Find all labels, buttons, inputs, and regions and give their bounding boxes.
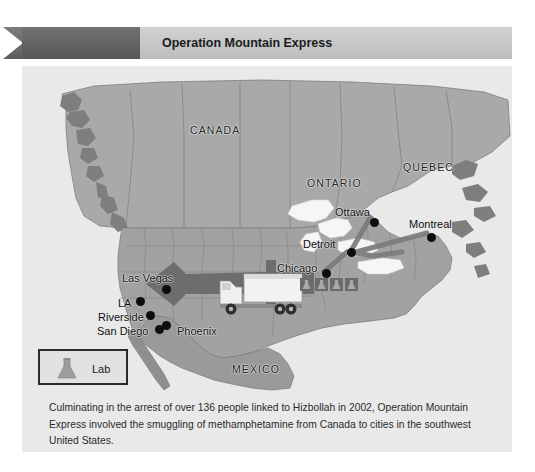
city-label-las-vegas: Las Vegas	[122, 272, 173, 284]
city-dot-montreal	[427, 233, 436, 242]
city-dot-la	[136, 297, 145, 306]
region-label-ontario: ONTARIO	[307, 177, 362, 189]
city-label-san-diego: San Diego	[97, 325, 148, 337]
figure-body-panel: CANADA ONTARIO QUEBEC MEXICO Ottawa Mont…	[22, 66, 512, 452]
figure-number-tab	[22, 27, 140, 59]
region-label-mexico: MEXICO	[232, 363, 280, 375]
figure-caption: Culminating in the arrest of over 136 pe…	[49, 400, 489, 450]
region-label-quebec: QUEBEC	[403, 161, 454, 173]
map-legend: Lab	[38, 349, 128, 385]
eastern-canada-detail	[452, 160, 496, 278]
city-dot-ottawa	[370, 218, 379, 227]
city-dot-riverside	[146, 311, 155, 320]
figure-title-label: Operation Mountain Express	[162, 27, 332, 59]
city-label-la: LA	[118, 297, 131, 309]
figure-caption-text: Culminating in the arrest of over 136 pe…	[49, 400, 489, 450]
figure-tab-chevron-icon	[3, 27, 23, 59]
city-dot-chicago	[322, 269, 331, 278]
city-label-chicago: Chicago	[277, 262, 317, 274]
flask-icon	[54, 356, 80, 382]
city-label-montreal: Montreal	[409, 218, 452, 230]
region-label-canada: CANADA	[190, 124, 240, 136]
figure-header: Figure 20-1 Operation Mountain Express	[22, 27, 512, 59]
map-canvas: CANADA ONTARIO QUEBEC MEXICO Ottawa Mont…	[22, 66, 512, 391]
city-label-detroit: Detroit	[303, 238, 335, 250]
city-label-phoenix: Phoenix	[177, 325, 217, 337]
city-dot-phoenix	[162, 321, 171, 330]
city-dot-detroit	[347, 248, 356, 257]
canada-landmass	[62, 80, 510, 228]
city-label-riverside: Riverside	[98, 311, 144, 323]
city-label-ottawa: Ottawa	[335, 206, 370, 218]
city-dot-las-vegas	[162, 285, 171, 294]
legend-label: Lab	[92, 351, 110, 387]
